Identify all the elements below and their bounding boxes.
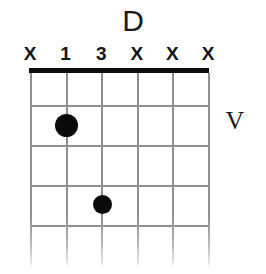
fret-line-3 [30,185,208,187]
finger-dot-1 [55,114,78,137]
string-line-4 [137,73,139,268]
nut-bar [29,68,209,73]
string-line-5 [172,73,174,268]
position-marker: V [220,107,250,135]
fret-line-4 [30,225,208,227]
finger-dot-2 [93,195,112,214]
fret-line-2 [30,145,208,147]
fretboard [0,0,266,274]
string-line-3 [101,73,103,268]
string-line-6 [208,73,210,268]
chord-diagram: D X 1 3 X X X V [0,0,266,274]
string-line-1 [30,73,32,268]
string-line-2 [66,73,68,268]
fret-line-1 [30,105,208,107]
